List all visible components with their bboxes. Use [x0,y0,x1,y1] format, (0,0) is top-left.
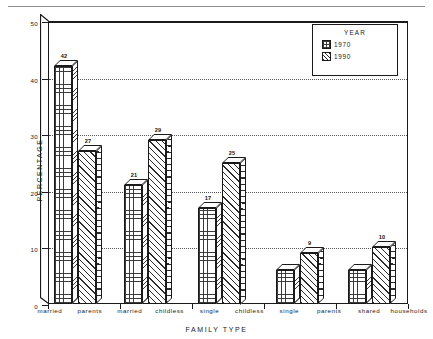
legend-swatch-1990-icon [322,52,331,61]
xlabel-parents-7: parents [317,307,342,314]
y-axis-title: PERCENTAGE [36,138,43,201]
bar-1990-married-parents[interactable]: 27 [78,151,96,304]
bar-1990-shared-households[interactable]: 10 [372,247,390,304]
bar-face [198,208,216,304]
legend-item-1990[interactable]: 1990 [313,52,397,61]
bar-1970-single-parents[interactable] [276,270,294,304]
bar-face [78,151,96,304]
bar-face [222,163,240,305]
bar-side [166,134,172,304]
legend-item-1970[interactable]: 1970 [313,40,397,49]
bar-face [348,270,366,304]
bar-face [54,66,72,304]
bar-1990-single-parents[interactable]: 9 [300,253,318,304]
legend-title: YEAR [313,29,397,36]
bar-value-label: 10 [379,234,385,240]
bar-side [240,157,246,304]
xlabel-single-6: single [280,307,299,314]
legend-swatch-1970-icon [322,40,331,49]
bar-side [96,145,102,304]
bar-value-label: 21 [131,172,137,178]
bar-value-label: 25 [229,150,235,156]
bar-chart: 50 40 30 20 10 0 42 [0,0,433,339]
bar-value-label: 17 [205,195,211,201]
bar-side [390,242,396,304]
page-top-rule [8,6,425,7]
bar-1970-married-parents[interactable]: 42 [54,66,72,304]
bar-value-label: 29 [155,127,161,133]
xlabel-shared-8: shared [358,307,380,314]
xlabel-single-4: single [200,307,219,314]
bar-1970-single-childless[interactable]: 17 [198,208,216,304]
bar-side [318,247,324,304]
ytick-label-50: 50 [31,20,38,27]
bar-face [148,140,166,304]
bar-value-label: 27 [85,138,91,144]
x-axis-title: FAMILY TYPE [0,326,433,333]
legend-label-1970: 1970 [334,41,351,48]
xlabel-married-0: married [38,307,63,314]
chart-legend: YEAR 1970 1990 [312,24,398,76]
bar-1990-single-childless[interactable]: 25 [222,163,240,305]
xlabel-parents-1: parents [78,307,103,314]
bar-face [372,247,390,304]
bar-1970-shared-households[interactable] [348,270,366,304]
xlabel-households-9: households [390,307,427,314]
ytick-label-10: 10 [31,246,38,253]
xlabel-married-2: married [117,307,142,314]
bar-face [276,270,294,304]
bar-face [124,185,142,304]
ytick-label-40: 40 [31,76,38,83]
xlabel-childless-3: childless [155,307,184,314]
legend-label-1990: 1990 [334,53,351,60]
bar-value-label: 42 [61,53,67,59]
x-axis-labels: marriedparentsmarriedchildlesssinglechil… [0,307,433,319]
bar-1990-married-childless[interactable]: 29 [148,140,166,304]
bar-value-label: 9 [308,240,311,246]
bar-face [300,253,318,304]
bar-1970-married-childless[interactable]: 21 [124,185,142,304]
xlabel-childless-5: childless [235,307,264,314]
